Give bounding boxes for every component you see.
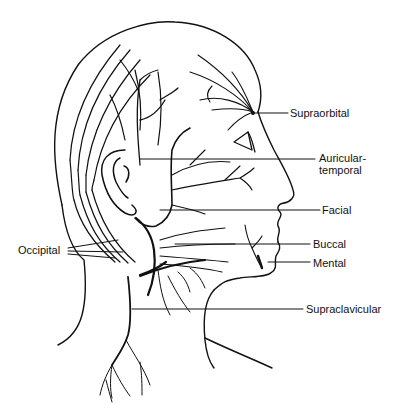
eye <box>234 132 255 152</box>
label-supraorbital: Supraorbital <box>290 107 349 119</box>
supraorbital-nerve-point <box>251 111 255 115</box>
facial-nerve-branches <box>172 150 254 214</box>
supraorbital-nerve-branches <box>190 55 253 130</box>
head-outline <box>55 22 294 368</box>
jaw-line <box>135 128 190 227</box>
cervical-branches <box>158 268 205 315</box>
label-facial: Facial <box>322 204 351 216</box>
supraclavicular-branches <box>100 340 150 402</box>
label-mental: Mental <box>313 257 346 269</box>
label-auriculotemporal-1: Auricular- <box>319 152 366 164</box>
leader-lines <box>68 113 320 309</box>
label-occipital: Occipital <box>18 244 60 256</box>
head-neck-nerve-diagram: Supraorbital Auricular- temporal Facial … <box>0 0 401 408</box>
label-auriculotemporal-2: temporal <box>319 164 362 176</box>
supraclavicular-nerve <box>112 277 130 365</box>
occipital-nerve-branches <box>70 45 178 263</box>
label-buccal: Buccal <box>313 238 346 250</box>
ear <box>102 150 136 215</box>
label-supraclavicular: Supraclavicular <box>306 303 381 315</box>
